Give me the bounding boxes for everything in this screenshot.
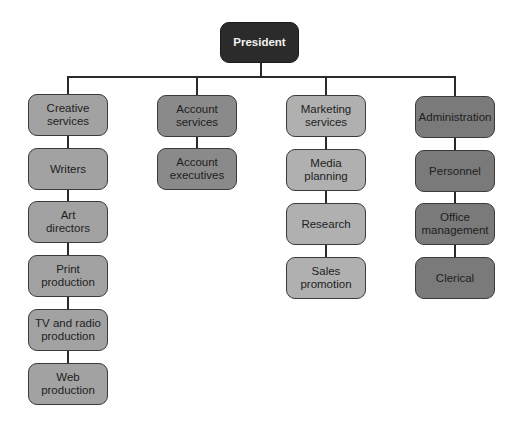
node-account-services: Account services <box>157 95 237 137</box>
org-chart: President Creative services Writers Art … <box>0 0 516 423</box>
node-clerical: Clerical <box>415 257 495 299</box>
node-personnel: Personnel <box>415 150 495 192</box>
node-tv-radio-production: TV and radio production <box>28 309 108 351</box>
node-media-planning: Media planning <box>286 149 366 191</box>
node-account-executives: Account executives <box>157 148 237 190</box>
node-office-management: Office management <box>415 203 495 245</box>
node-writers: Writers <box>28 148 108 190</box>
node-print-production: Print production <box>28 255 108 297</box>
node-creative-services: Creative services <box>28 94 108 136</box>
node-marketing-services: Marketing services <box>286 95 366 137</box>
node-web-production: Web production <box>28 363 108 405</box>
node-research: Research <box>286 203 366 245</box>
node-sales-promotion: Sales promotion <box>286 257 366 299</box>
node-president: President <box>220 22 299 63</box>
connector-root-down <box>260 62 262 77</box>
connector-horizontal <box>67 76 455 78</box>
node-administration: Administration <box>415 96 495 138</box>
node-art-directors: Art directors <box>28 201 108 243</box>
